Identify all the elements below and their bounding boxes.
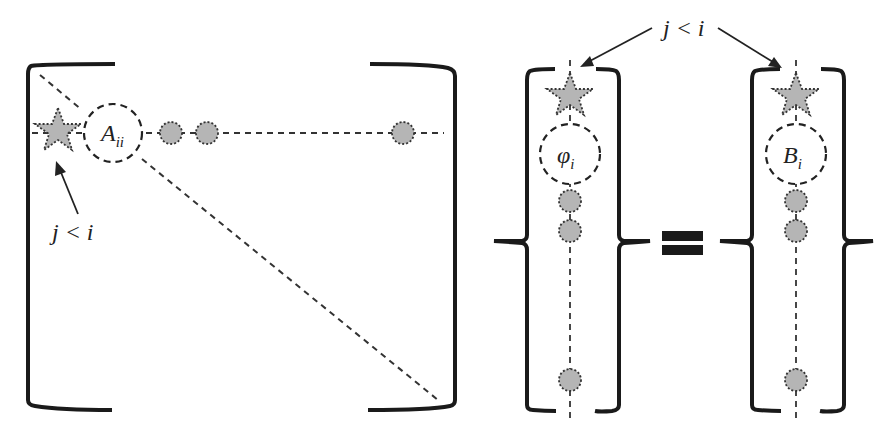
arrow-head-icon: [55, 161, 66, 176]
arrow-head-icon: [580, 56, 594, 67]
b-left-bracket: [720, 69, 781, 411]
phi-left-bracket: [494, 69, 556, 411]
star-arrow: [60, 170, 78, 214]
arrow-to-b: [718, 28, 773, 62]
column-dot: [559, 369, 581, 391]
matrix-right-bracket: [368, 64, 455, 410]
phi-right-bracket: [595, 69, 650, 412]
row-dot: [196, 122, 218, 144]
row-dot: [160, 122, 182, 144]
column-dot: [559, 220, 581, 242]
column-dot: [785, 369, 807, 391]
matrix: Aii j < i: [28, 64, 455, 410]
star-label: j < i: [49, 219, 94, 245]
equals-sign: [662, 231, 703, 255]
vector-b: Bi: [720, 60, 873, 420]
vector-phi: φi: [494, 60, 650, 420]
row-dot: [392, 122, 414, 144]
top-label: j < i: [660, 15, 705, 41]
b-right-bracket: [820, 69, 873, 412]
arrow-to-phi: [588, 28, 652, 62]
column-dot: [559, 190, 581, 212]
column-dot: [785, 190, 807, 212]
matrix-diagonal: [40, 75, 82, 110]
diagram-canvas: Aii j < i j < i φi Bi: [0, 0, 891, 435]
star-icon: [35, 108, 81, 150]
column-dot: [785, 220, 807, 242]
matrix-diagonal-lower: [142, 159, 438, 400]
arrow-head-icon: [768, 57, 782, 68]
